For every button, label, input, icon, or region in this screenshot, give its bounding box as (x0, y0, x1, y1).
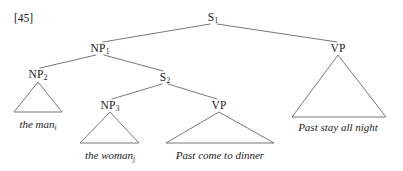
node-vp-inner-label: VP (212, 99, 227, 111)
triangle-vp-right (292, 55, 386, 117)
edge-np1-np2 (40, 55, 96, 68)
node-np1-label: NP (91, 42, 106, 54)
node-np2-label: NP (29, 68, 44, 80)
node-s2-label: S (160, 71, 167, 83)
node-s2: S2 (160, 71, 170, 83)
node-np2: NP2 (29, 68, 48, 80)
terminal-np2-text: the man (19, 118, 54, 130)
terminal-np3-subscript: j (133, 154, 135, 163)
node-s1-label: S (208, 11, 215, 23)
terminal-np2-subscript: i (55, 123, 57, 132)
terminal-np3: the womanj (85, 149, 135, 161)
node-s1: S1 (208, 11, 218, 23)
edge-s1-vp-right (217, 24, 337, 42)
node-np1: NP1 (91, 42, 110, 54)
node-s1-subscript: 1 (215, 16, 219, 25)
node-vp-inner: VP (212, 99, 227, 111)
triangle-vp-inner (166, 112, 274, 143)
node-vp-right: VP (331, 42, 346, 54)
edge-s2-vp-inner (168, 84, 217, 99)
node-np3-subscript: 3 (116, 104, 120, 113)
node-s2-subscript: 2 (167, 76, 171, 85)
node-np3: NP3 (101, 99, 120, 111)
node-np1-subscript: 1 (106, 47, 110, 56)
terminal-vp-right: Past stay all night (298, 121, 378, 133)
edge-np1-s2 (104, 55, 163, 71)
terminal-vp-right-text: Past stay all night (298, 121, 378, 133)
tree-lines-svg (0, 0, 403, 171)
triangle-np2 (14, 82, 62, 112)
terminal-np3-text: the woman (85, 149, 133, 161)
node-vp-right-label: VP (331, 42, 346, 54)
node-np2-subscript: 2 (44, 73, 48, 82)
triangle-np3 (80, 112, 139, 143)
syntax-tree-figure: [45] S1 NP1 VP NP2 (0, 0, 403, 171)
edge-s1-np1 (103, 24, 210, 42)
terminal-vp-inner-text: Past come to dinner (176, 149, 264, 161)
edge-s2-np3 (112, 84, 162, 99)
terminal-vp-inner: Past come to dinner (176, 149, 264, 161)
terminal-np2: the mani (19, 118, 56, 130)
node-np3-label: NP (101, 99, 116, 111)
